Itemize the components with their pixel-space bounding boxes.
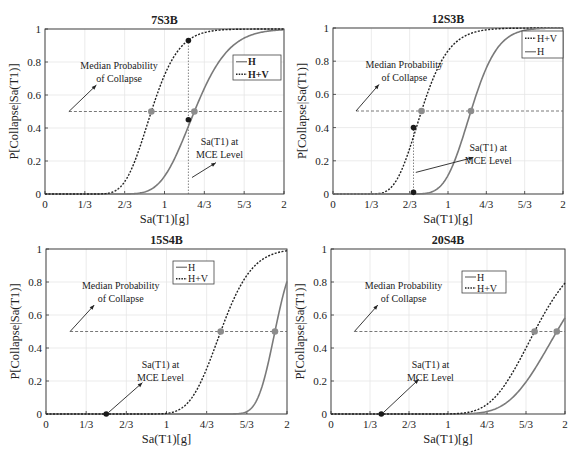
svg-text:Sa(T1) at: Sa(T1) at — [201, 136, 239, 148]
y-tick-label: 0.6 — [27, 89, 41, 101]
annotation-mce: Sa(T1) atMCE Level — [109, 359, 185, 413]
svg-text:of Collapse: of Collapse — [98, 293, 144, 304]
y-tick-label: 0.8 — [315, 55, 329, 67]
legend-entry: H — [248, 56, 256, 67]
svg-text:Sa(T1) at: Sa(T1) at — [412, 359, 450, 371]
x-tick-label: 4/3 — [480, 418, 495, 430]
x-tick-label: 2 — [284, 418, 290, 430]
y-tick-label: 0 — [37, 408, 43, 420]
legend-entry: H — [188, 262, 195, 273]
annotation-mce: Sa(T1) atMCE Level — [416, 142, 512, 173]
x-tick-label: 5/3 — [518, 198, 533, 210]
x-tick-label: 0 — [43, 418, 49, 430]
median-point — [148, 108, 155, 115]
x-axis-label: Sa(T1)[g] — [423, 212, 472, 226]
legend-entry: H+V — [537, 33, 558, 44]
svg-text:MCE Level: MCE Level — [137, 372, 184, 383]
svg-text:MCE Level: MCE Level — [465, 155, 512, 166]
y-axis-label: P[Collapse|Sa(T1)] — [8, 283, 22, 379]
svg-text:Sa(T1) at: Sa(T1) at — [142, 359, 180, 371]
x-tick-label: 1 — [445, 418, 451, 430]
y-axis-label: P[Collapse|Sa(T1)] — [293, 283, 307, 379]
x-tick-label: 2/3 — [118, 198, 133, 210]
legend: HH+V — [173, 261, 214, 284]
y-tick-label: 0.6 — [313, 309, 327, 321]
y-axis-label: P[Collapse|Sa(T1)] — [295, 63, 309, 159]
chart-panel-20s4b: 01/32/314/35/3200.20.40.60.8120S4BSa(T1)… — [290, 228, 581, 458]
chart-title: 12S3B — [432, 12, 465, 26]
median-point — [468, 108, 475, 115]
x-tick-label: 0 — [328, 418, 334, 430]
annotation-median: Median Probabilityof Collapse — [70, 280, 159, 332]
median-point — [191, 108, 198, 115]
y-tick-label: 1 — [322, 243, 328, 255]
median-point — [418, 108, 425, 115]
svg-text:of Collapse: of Collapse — [381, 72, 427, 83]
x-tick-label: 1/3 — [79, 418, 94, 430]
y-tick-label: 0.2 — [28, 375, 42, 387]
y-tick-label: 0.8 — [313, 276, 327, 288]
legend-entry: H+V — [477, 283, 498, 294]
x-tick-label: 2/3 — [402, 418, 417, 430]
legend: HH+V — [462, 271, 506, 294]
x-tick-label: 4/3 — [197, 198, 212, 210]
x-tick-label: 2 — [281, 198, 287, 210]
x-tick-label: 1 — [445, 198, 451, 210]
svg-text:Median Probability: Median Probability — [366, 59, 444, 70]
chart-panel-12s3b: 01/32/314/35/3200.20.40.60.8112S3BSa(T1)… — [290, 0, 581, 228]
y-tick-label: 0.2 — [313, 375, 327, 387]
x-axis-label: Sa(T1)[g] — [140, 212, 189, 226]
x-axis-label: Sa(T1)[g] — [423, 432, 472, 446]
y-tick-label: 0 — [324, 188, 330, 200]
y-tick-label: 0.2 — [27, 155, 41, 167]
x-tick-label: 1/3 — [363, 418, 378, 430]
x-tick-label: 2/3 — [119, 418, 134, 430]
x-axis-label: Sa(T1)[g] — [142, 432, 191, 446]
median-point — [531, 328, 538, 335]
mce-point — [411, 190, 417, 196]
svg-text:Median Probability: Median Probability — [80, 60, 158, 71]
chart-panel-15s4b: 01/32/314/35/3200.20.40.60.8115S4BSa(T1)… — [0, 228, 290, 458]
x-tick-label: 4/3 — [479, 198, 494, 210]
x-tick-label: 0 — [42, 198, 48, 210]
y-tick-label: 0.8 — [27, 56, 41, 68]
chart-title: 7S3B — [151, 13, 178, 27]
mce-point — [186, 38, 192, 44]
y-tick-label: 1 — [37, 243, 43, 255]
x-tick-label: 1/3 — [364, 198, 379, 210]
svg-text:Median Probability: Median Probability — [82, 280, 160, 291]
x-tick-label: 5/3 — [519, 418, 534, 430]
annotation-mce: Sa(T1) atMCE Level — [192, 136, 243, 178]
legend-entry: H+V — [188, 273, 209, 284]
svg-text:Sa(T1) at: Sa(T1) at — [470, 142, 508, 154]
mce-point — [411, 125, 417, 131]
legend-entry: H — [537, 46, 544, 57]
x-tick-label: 2/3 — [403, 198, 418, 210]
y-tick-label: 0.6 — [315, 88, 329, 100]
median-point — [217, 328, 224, 335]
mce-point — [103, 411, 109, 417]
svg-text:MCE Level: MCE Level — [407, 372, 454, 383]
y-tick-label: 0.4 — [315, 122, 329, 134]
y-tick-label: 0 — [36, 188, 42, 200]
legend: HH+V — [233, 55, 281, 80]
svg-text:of Collapse: of Collapse — [381, 293, 427, 304]
x-tick-label: 1 — [164, 418, 170, 430]
median-point — [554, 328, 561, 335]
legend-entry: H — [477, 272, 484, 283]
median-point — [272, 328, 279, 335]
chart-title: 20S4B — [432, 233, 465, 247]
chart-panel-7s3b: 01/32/314/35/3200.20.40.60.817S3BSa(T1)[… — [0, 0, 290, 228]
annotation-mce: Sa(T1) atMCE Level — [384, 359, 454, 413]
y-tick-label: 1 — [36, 23, 42, 35]
y-tick-label: 0.2 — [315, 155, 329, 167]
y-tick-label: 0 — [322, 408, 328, 420]
x-tick-label: 5/3 — [237, 198, 252, 210]
y-tick-label: 0.8 — [28, 276, 42, 288]
annotation-median: Median Probabilityof Collapse — [69, 60, 158, 112]
mce-point — [379, 411, 385, 417]
y-axis-label: P[Collapse|Sa(T1)] — [7, 63, 21, 159]
chart-title: 15S4B — [150, 233, 183, 247]
x-tick-label: 5/3 — [240, 418, 255, 430]
x-tick-label: 0 — [330, 198, 336, 210]
